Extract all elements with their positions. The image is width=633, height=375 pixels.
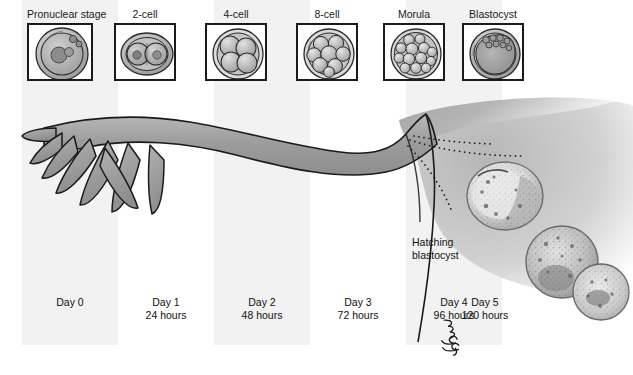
- artist-signature: [0, 0, 633, 375]
- embryo-development-figure: Pronuclear stage: [0, 0, 633, 375]
